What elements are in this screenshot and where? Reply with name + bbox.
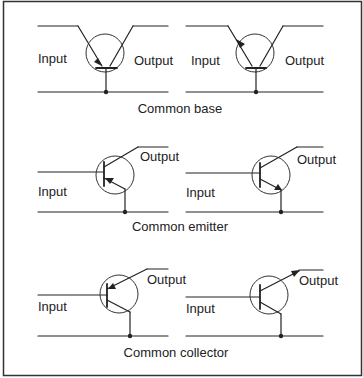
- output-label: Output: [140, 149, 179, 164]
- common-base-section: Input Output Input Output Common base: [38, 26, 324, 116]
- input-label: Input: [186, 301, 215, 316]
- collector-lead: [260, 26, 283, 66]
- input-label: Input: [186, 185, 215, 200]
- input-label: Input: [191, 53, 220, 68]
- output-label: Output: [299, 273, 338, 288]
- common-emitter-section: Input Output Input Output Common emitter: [38, 147, 336, 234]
- collector-lead: [110, 26, 133, 66]
- collector-lead: [107, 300, 130, 312]
- junction-dot: [123, 210, 127, 214]
- output-label: Output: [147, 272, 186, 287]
- common-collector-right-circuit: Input Output: [186, 270, 338, 338]
- common-emitter-left-circuit: Input Output: [38, 147, 179, 214]
- transistor-envelope: [96, 156, 134, 194]
- input-label: Input: [38, 184, 67, 199]
- common-collector-left-circuit: Input Output: [38, 269, 186, 338]
- junction-dot: [279, 210, 283, 214]
- output-label: Output: [285, 53, 324, 68]
- common-collector-section: Input Output Input Output Common collect…: [38, 269, 338, 360]
- section-caption: Common collector: [124, 345, 229, 360]
- section-caption: Common emitter: [132, 219, 229, 234]
- common-base-left-circuit: Input Output: [38, 26, 173, 94]
- transistor-envelope: [86, 34, 124, 72]
- junction-dot: [254, 90, 258, 94]
- diagram-canvas: Input Output Input Output Common base: [0, 0, 363, 378]
- junction-dot: [279, 334, 283, 338]
- output-label: Output: [297, 152, 336, 167]
- transistor-envelope: [236, 34, 274, 72]
- emitter-arrow-icon: [94, 58, 102, 66]
- input-label: Input: [38, 51, 67, 66]
- section-caption: Common base: [138, 101, 223, 116]
- junction-dot: [104, 90, 108, 94]
- transistor-envelope: [100, 275, 138, 313]
- emitter-arrow-icon: [108, 283, 116, 289]
- transistor-envelope: [250, 276, 288, 314]
- junction-dot: [128, 334, 132, 338]
- common-emitter-right-circuit: Input Output: [186, 147, 336, 214]
- input-label: Input: [38, 299, 67, 314]
- transistor-configurations-figure: Input Output Input Output Common base: [0, 0, 363, 378]
- output-label: Output: [134, 53, 173, 68]
- common-base-right-circuit: Input Output: [186, 26, 324, 94]
